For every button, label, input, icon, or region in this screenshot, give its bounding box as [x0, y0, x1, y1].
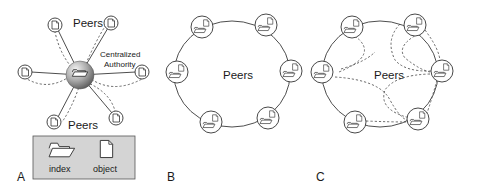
- peers-label-bottom: Peers: [68, 119, 98, 131]
- peer-node: [257, 107, 279, 129]
- document-icon: [47, 115, 61, 129]
- peers-label: Peers: [223, 69, 253, 81]
- peer-node: [344, 111, 366, 133]
- document-icon: [18, 65, 32, 79]
- peer-node: [200, 111, 222, 133]
- legend-object-label: object: [93, 164, 118, 174]
- peer-node: [255, 14, 277, 36]
- legend-index-label: index: [49, 164, 71, 174]
- panel-letter-c: C: [316, 170, 325, 184]
- peer-node: [311, 61, 333, 83]
- document-icon: [48, 18, 62, 32]
- peer-node: [166, 61, 188, 83]
- peer-node: [280, 60, 302, 82]
- document-icon: [104, 16, 118, 30]
- peer-node: [407, 108, 429, 130]
- document-icon: [135, 65, 149, 79]
- panel-letter-b: B: [167, 170, 175, 184]
- peer-node: [191, 16, 213, 38]
- peer-node: [431, 60, 453, 82]
- panel-a-centralized: Peers Peers Centralized Authority index …: [17, 16, 149, 184]
- centralized-authority-node: [66, 61, 94, 89]
- authority-label-line1: Centralized: [100, 50, 140, 59]
- document-icon: [109, 111, 123, 125]
- legend: index object: [33, 136, 135, 179]
- peer-node: [404, 14, 426, 36]
- document-icon: [100, 140, 112, 157]
- peers-label: Peers: [374, 69, 404, 81]
- p2p-architecture-diagram: Peers Peers Centralized Authority index …: [0, 0, 479, 194]
- panel-b-ring: Peers B: [166, 14, 302, 184]
- peer-node: [341, 16, 363, 38]
- authority-label-line2: Authority: [104, 60, 136, 69]
- panel-c-mesh: Peers C: [311, 14, 453, 184]
- panel-letter-a: A: [17, 170, 25, 184]
- peers-label-top: Peers: [73, 17, 103, 29]
